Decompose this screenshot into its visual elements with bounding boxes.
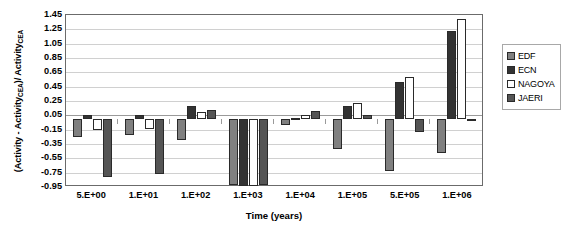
x-axis-tick-label: 1.E+06	[431, 190, 483, 206]
bar-slot	[437, 15, 446, 185]
bar-jaeri	[259, 119, 268, 185]
bar-nagoya	[353, 103, 362, 119]
bar-nagoya	[249, 119, 258, 186]
bar-slot	[187, 15, 196, 185]
bar-slot	[311, 15, 320, 185]
legend-item-edf[interactable]: EDF	[507, 49, 555, 63]
bar-nagoya	[405, 77, 414, 119]
bar-group	[66, 15, 118, 185]
x-axis-tick-label: 1.E+04	[274, 190, 326, 206]
legend-swatch-icon	[507, 94, 515, 102]
bar-group-bars	[222, 15, 274, 185]
bar-slot	[145, 15, 154, 185]
bar-slot	[415, 15, 424, 185]
bar-groups	[66, 15, 482, 185]
bar-slot	[259, 15, 268, 185]
bar-slot	[135, 15, 144, 185]
bar-slot	[447, 15, 456, 185]
bar-ecn	[291, 118, 300, 120]
y-axis-tick-label: -0.95	[22, 181, 62, 191]
bar-group	[378, 15, 430, 185]
bar-slot	[385, 15, 394, 185]
legend: EDFECNNAGOYAJAERI	[502, 44, 561, 110]
bar-ecn	[187, 106, 196, 119]
bar-edf	[229, 119, 238, 185]
legend-swatch-icon	[507, 52, 515, 60]
bar-chart: (Activity - ActivityCEA)/ ActivityCEA 1.…	[0, 0, 586, 237]
x-axis-tick-labels: 5.E+001.E+011.E+021.E+031.E+041.E+055.E+…	[65, 190, 483, 206]
bar-group-bars	[66, 15, 118, 185]
bar-slot	[73, 15, 82, 185]
bar-ecn	[135, 115, 144, 119]
bar-nagoya	[197, 112, 206, 119]
bar-group	[274, 15, 326, 185]
y-axis-tick-label: 1.25	[22, 23, 62, 33]
plot-area	[65, 14, 483, 186]
bar-group-bars	[274, 15, 326, 185]
x-axis-tick-label: 1.E+05	[326, 190, 378, 206]
bar-slot	[467, 15, 476, 185]
bar-slot	[281, 15, 290, 185]
y-axis-tick-label: -0.15	[22, 124, 62, 134]
bar-slot	[239, 15, 248, 185]
y-axis-tick-label: 0.45	[22, 81, 62, 91]
legend-item-label: EDF	[518, 51, 535, 61]
legend-swatch-icon	[507, 66, 515, 74]
bar-slot	[83, 15, 92, 185]
bar-nagoya	[145, 119, 154, 129]
bar-slot	[301, 15, 310, 185]
bar-group	[170, 15, 222, 185]
bar-slot	[353, 15, 362, 185]
bar-slot	[93, 15, 102, 185]
bar-nagoya	[457, 19, 466, 119]
bar-nagoya	[93, 119, 102, 130]
y-axis-tick-label: -0.35	[22, 138, 62, 148]
bar-slot	[249, 15, 258, 185]
bar-slot	[229, 15, 238, 185]
bar-edf	[125, 119, 134, 135]
legend-item-label: JAERI	[518, 93, 543, 103]
y-axis-tick-label: 0.85	[22, 52, 62, 62]
bar-edf	[385, 119, 394, 171]
bar-ecn	[239, 119, 248, 186]
bar-slot	[207, 15, 216, 185]
y-axis-tick-label: 1.05	[22, 38, 62, 48]
legend-swatch-icon	[507, 80, 515, 88]
legend-item-nagoya[interactable]: NAGOYA	[507, 77, 555, 91]
bar-ecn	[395, 82, 404, 119]
bar-edf	[177, 119, 186, 140]
bar-edf	[437, 119, 446, 153]
bar-group-bars	[326, 15, 378, 185]
x-axis-tick-label: 1.E+03	[222, 190, 274, 206]
bar-slot	[405, 15, 414, 185]
legend-item-label: NAGOYA	[518, 79, 555, 89]
y-axis-tick-label: 1.45	[22, 9, 62, 19]
y-axis-tick-labels: 1.451.251.050.850.650.450.250.05-0.15-0.…	[22, 14, 62, 186]
y-axis-tick-label: 0.05	[22, 109, 62, 119]
bar-slot	[395, 15, 404, 185]
bar-jaeri	[363, 115, 372, 119]
bar-slot	[197, 15, 206, 185]
bar-jaeri	[467, 119, 476, 121]
legend-item-ecn[interactable]: ECN	[507, 63, 555, 77]
x-axis-tick-label: 5.E+05	[379, 190, 431, 206]
bar-jaeri	[311, 111, 320, 119]
bar-group	[222, 15, 274, 185]
bar-slot	[125, 15, 134, 185]
bar-jaeri	[415, 119, 424, 132]
bar-group-bars	[170, 15, 222, 185]
bar-slot	[343, 15, 352, 185]
y-axis-tick-label: -0.55	[22, 152, 62, 162]
bar-edf	[281, 119, 290, 125]
y-axis-tick-label: -0.75	[22, 167, 62, 177]
y-axis-tick-label: 0.25	[22, 95, 62, 105]
legend-item-jaeri[interactable]: JAERI	[507, 91, 555, 105]
x-axis-tick-label: 1.E+02	[170, 190, 222, 206]
bar-slot	[333, 15, 342, 185]
legend-item-label: ECN	[518, 65, 536, 75]
bar-edf	[333, 119, 342, 149]
x-axis-tick-label: 1.E+01	[117, 190, 169, 206]
bar-jaeri	[103, 119, 112, 177]
bar-slot	[291, 15, 300, 185]
bar-group-bars	[430, 15, 482, 185]
